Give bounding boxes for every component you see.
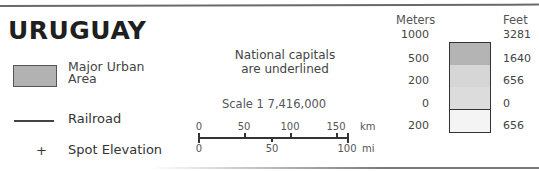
- feet-1640: 1640: [503, 52, 531, 65]
- feet-3281: 3281: [503, 28, 531, 41]
- capitals-note: National capitals are underlined: [215, 48, 355, 76]
- feet-656-below: 656: [503, 119, 524, 132]
- mi-tick-0: 0: [196, 143, 202, 154]
- scale-bar: [198, 137, 349, 139]
- km-tick-mark-50: [244, 133, 246, 137]
- km-tick-50: 50: [238, 121, 251, 132]
- km-tick-mark-100: [290, 133, 292, 137]
- feet-header: Feet: [503, 13, 528, 27]
- meters-200: 200: [408, 74, 429, 87]
- km-tick-0: 0: [196, 121, 202, 132]
- km-tick-mark-150: [336, 133, 338, 137]
- feet-0: 0: [503, 97, 510, 110]
- km-tick-150: 150: [326, 121, 345, 132]
- frame-bottom-border: [150, 167, 539, 169]
- capitals-note-line2: are underlined: [215, 62, 355, 76]
- capitals-note-line1: National capitals: [215, 48, 355, 62]
- urban-area-swatch-icon: [13, 65, 57, 87]
- mi-tick-mark-50: [271, 138, 273, 142]
- km-unit: km: [360, 121, 376, 132]
- elevation-band-200-500: [449, 65, 491, 88]
- feet-656: 656: [503, 74, 524, 87]
- frame-top-border: [0, 4, 539, 7]
- scale-tick-start: [198, 133, 200, 143]
- elevation-band-500-1000: [449, 42, 491, 66]
- spot-elevation-label: Spot Elevation: [68, 142, 162, 157]
- scale-title: Scale 1 7,416,000: [222, 97, 326, 111]
- elevation-band-0-200: [449, 87, 491, 110]
- railroad-label: Railroad: [68, 111, 121, 126]
- meters-header: Meters: [396, 13, 435, 27]
- mi-unit: mi: [362, 143, 375, 154]
- urban-area-label: Major Urban Area: [68, 61, 144, 85]
- meters-0: 0: [422, 97, 429, 110]
- spot-elevation-plus-icon: +: [36, 143, 47, 158]
- km-tick-100: 100: [280, 121, 299, 132]
- meters-1000: 1000: [401, 28, 429, 41]
- mi-tick-100: 100: [337, 143, 356, 154]
- railroad-line-icon: [14, 120, 54, 122]
- elevation-band-below-sea: [449, 109, 491, 133]
- meters-500: 500: [408, 52, 429, 65]
- meters-200-below: 200: [408, 119, 429, 132]
- scale-tick-end: [347, 133, 349, 143]
- urban-area-label-line2: Area: [68, 73, 144, 85]
- map-title: URUGUAY: [8, 16, 146, 45]
- mi-tick-50: 50: [266, 143, 279, 154]
